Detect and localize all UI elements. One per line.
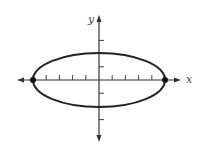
ellipse-plot	[0, 0, 205, 148]
vertex-point	[30, 77, 36, 83]
x-axis-label: x	[186, 74, 192, 85]
x-axis-right-arrow-icon	[174, 78, 181, 83]
y-axis-bottom-arrow-icon	[97, 135, 102, 142]
y-axis-top-arrow-icon	[97, 15, 102, 22]
y-axis-label: y	[88, 14, 94, 25]
vertex-point	[162, 77, 168, 83]
x-axis-left-arrow-icon	[17, 78, 24, 83]
